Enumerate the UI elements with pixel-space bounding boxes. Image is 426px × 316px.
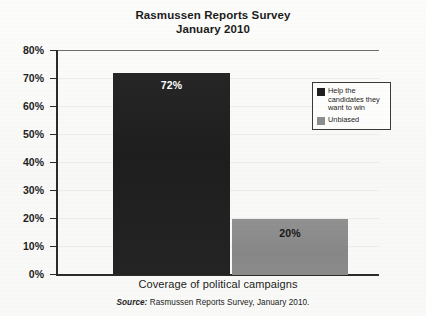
legend-item-label: Help the candidates they want to win	[328, 87, 386, 113]
legend-item-label: Unbiased	[328, 116, 359, 125]
chart-figure: Rasmussen Reports Survey January 2010 80…	[0, 0, 426, 316]
y-tick-50	[50, 134, 57, 135]
y-axis-label-20: 20%	[0, 213, 44, 223]
y-axis-label-60: 60%	[0, 101, 44, 111]
legend-swatch-icon	[317, 117, 325, 125]
chart-title-block: Rasmussen Reports Survey January 2010	[0, 8, 426, 36]
bar-value-label: 20%	[232, 227, 348, 239]
bar-help-candidates[interactable]: 72%	[113, 73, 230, 275]
y-axis-label-40: 40%	[0, 157, 44, 167]
chart-subtitle: January 2010	[0, 22, 426, 36]
y-tick-60	[50, 106, 57, 107]
source-note: Source: Rasmussen Reports Survey, Januar…	[0, 298, 426, 307]
y-axis-label-10: 10%	[0, 241, 44, 251]
y-tick-0	[50, 274, 57, 275]
source-prefix: Source:	[117, 298, 148, 307]
chart-legend: Help the candidates they want to win Unb…	[312, 82, 391, 130]
y-tick-80	[50, 50, 57, 51]
y-axis-label-70: 70%	[0, 73, 44, 83]
y-tick-40	[50, 162, 57, 163]
y-axis-label-0: 0%	[0, 269, 44, 279]
x-axis-title: Coverage of political campaigns	[57, 278, 379, 290]
source-text: Rasmussen Reports Survey, January 2010.	[150, 298, 310, 307]
y-tick-30	[50, 190, 57, 191]
y-axis-label-50: 50%	[0, 129, 44, 139]
legend-swatch-icon	[317, 88, 325, 96]
chart-title: Rasmussen Reports Survey	[0, 8, 426, 22]
y-tick-10	[50, 246, 57, 247]
y-axis-label-30: 30%	[0, 185, 44, 195]
legend-item-help-candidates[interactable]: Help the candidates they want to win	[317, 87, 386, 113]
bar-unbiased[interactable]: 20%	[232, 219, 348, 275]
bar-value-label: 72%	[113, 79, 230, 91]
y-tick-20	[50, 218, 57, 219]
legend-item-unbiased[interactable]: Unbiased	[317, 116, 386, 125]
y-axis-label-80: 80%	[0, 45, 44, 55]
y-tick-70	[50, 78, 57, 79]
